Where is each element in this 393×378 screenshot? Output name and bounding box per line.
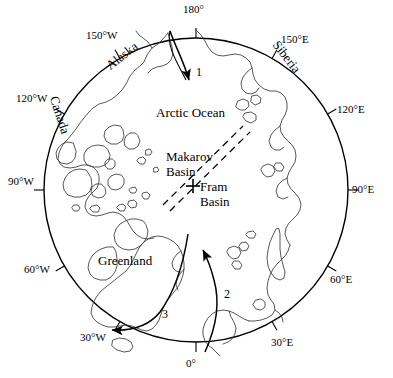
- island-iceland: [112, 338, 133, 352]
- arrow-label-2: 2: [224, 288, 230, 301]
- basin-label-makarov-line2: Basin: [166, 165, 196, 179]
- graticule-label-lon-180: 180°: [183, 4, 204, 16]
- coast-europe-south: [212, 348, 220, 356]
- graticule-label-lon-90W: 90°W: [8, 176, 34, 188]
- globe-outline: [44, 38, 348, 342]
- arrow-label-3: 3: [162, 308, 168, 321]
- graticule-label-lon-150W: 150°W: [86, 30, 117, 42]
- place-label-arctic-ocean: Arctic Ocean: [156, 106, 225, 120]
- graticule-label-lon-0: 0°: [186, 358, 196, 370]
- graticule-label-lon-60E: 60°E: [330, 274, 352, 286]
- arctic-ocean-map-figure: 180° 150°E 120°E 90°E 60°E 30°E 0° 30°W …: [0, 0, 393, 378]
- graticule-label-lon-120E: 120°E: [337, 104, 365, 116]
- place-label-greenland: Greenland: [98, 254, 152, 268]
- basin-label-makarov-line1: Makarov: [166, 150, 213, 164]
- basin-label-fram-line2: Basin: [200, 195, 230, 209]
- basin-label-fram-line1: Fram: [200, 180, 227, 194]
- map-canvas: [0, 0, 393, 378]
- graticule-label-lon-120W: 120°W: [16, 93, 47, 105]
- graticule-label-lon-60W: 60°W: [24, 264, 50, 276]
- arrow-label-1: 1: [196, 66, 202, 79]
- graticule-label-lon-30E: 30°E: [271, 337, 293, 349]
- graticule-label-lon-30W: 30°W: [80, 332, 106, 344]
- graticule-label-lon-90E: 90°E: [352, 184, 374, 196]
